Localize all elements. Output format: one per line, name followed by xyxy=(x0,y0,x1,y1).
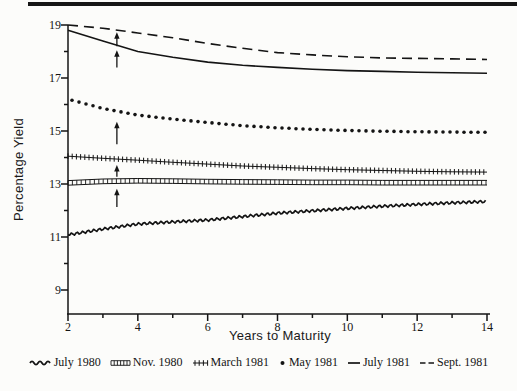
y-tick-label: 15 xyxy=(49,124,61,138)
x-tick-label: 2 xyxy=(65,320,71,334)
legend-item-july-1980: July 1980 xyxy=(29,355,101,370)
series-july-1981 xyxy=(68,30,487,73)
legend-label: Nov. 1980 xyxy=(133,355,183,370)
plus-line-icon xyxy=(192,358,209,368)
series-march-1981 xyxy=(68,153,487,174)
yield-chart-canvas: 191715131192468101214 xyxy=(0,0,517,352)
legend-label: July 1980 xyxy=(54,355,101,370)
legend-label: Sept. 1981 xyxy=(437,355,488,370)
legend-item-nov-1980: Nov. 1980 xyxy=(110,355,183,370)
up-arrow-head-icon xyxy=(114,32,119,39)
x-axis-title: Years to Maturity xyxy=(120,328,440,343)
legend: July 1980 Nov. 1980 March 1981 May 1981 … xyxy=(0,355,517,370)
up-arrow-head-icon xyxy=(114,165,119,172)
ladder-line-icon xyxy=(110,358,131,368)
legend-item-march-1981: March 1981 xyxy=(192,355,269,370)
series-sept-1981 xyxy=(68,25,487,60)
legend-label: May 1981 xyxy=(289,355,338,370)
legend-item-july-1981: July 1981 xyxy=(347,355,410,370)
legend-item-may-1981: May 1981 xyxy=(278,355,338,370)
up-arrow-head-icon xyxy=(114,50,119,57)
series-nov-1980 xyxy=(68,179,487,186)
up-arrow-head-icon xyxy=(114,189,119,196)
y-tick-label: 13 xyxy=(49,177,61,191)
series-july-1980 xyxy=(68,200,486,235)
x-tick-label: 14 xyxy=(481,320,493,334)
legend-item-sept-1981: Sept. 1981 xyxy=(419,355,488,370)
wavy-line-icon xyxy=(29,358,52,368)
legend-label: March 1981 xyxy=(211,355,269,370)
dashed-line-icon xyxy=(419,358,435,368)
y-tick-label: 19 xyxy=(49,18,61,32)
yield-curve-figure: 191715131192468101214 Percentage Yield Y… xyxy=(0,0,517,391)
axes: 191715131192468101214 xyxy=(49,18,493,334)
y-axis-title: Percentage Yield xyxy=(11,90,26,250)
annotation-arrows xyxy=(114,32,119,207)
series-may-1981 xyxy=(70,99,487,135)
up-arrow-head-icon xyxy=(114,122,119,129)
legend-label: July 1981 xyxy=(363,355,410,370)
y-tick-label: 11 xyxy=(49,230,61,244)
solid-line-icon xyxy=(347,358,361,368)
dot-marker-icon xyxy=(278,358,287,368)
y-tick-label: 17 xyxy=(49,71,61,85)
y-tick-label: 9 xyxy=(55,283,61,297)
